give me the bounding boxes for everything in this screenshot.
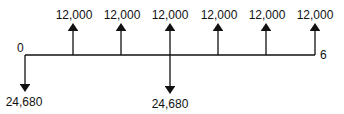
flow-amount-label: 24,680	[152, 98, 189, 110]
flow-amount-label: 12,000	[249, 9, 286, 21]
flow-amount-label: 12,000	[152, 9, 189, 21]
flow-amount-label: 12,000	[201, 9, 238, 21]
flow-amount-label: 24,680	[6, 96, 43, 108]
timeline-start-label: 0	[17, 42, 24, 54]
flow-amount-label: 12,000	[56, 9, 93, 21]
timeline-end-label: 6	[320, 49, 327, 61]
cash-flow-diagram: 0 6 24,680 12,000 12,000 12,000 24,680 1…	[0, 0, 344, 114]
flow-amount-label: 12,000	[297, 9, 334, 21]
flow-amount-label: 12,000	[104, 9, 141, 21]
